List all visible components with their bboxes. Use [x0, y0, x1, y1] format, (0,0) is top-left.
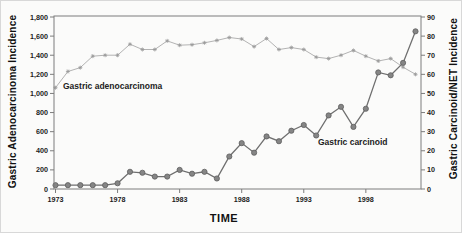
right-axis-tick-label: 90 [427, 13, 435, 22]
adenocarcinoma-data-point [289, 46, 293, 50]
adenocarcinoma-data-point [364, 54, 368, 58]
x-axis-tick-label: 1993 [296, 195, 312, 204]
adenocarcinoma-data-point [128, 42, 132, 46]
carcinoid-data-point [338, 104, 343, 109]
adenocarcinoma-data-point [178, 43, 182, 47]
right-axis-tick-label: 40 [427, 108, 435, 117]
carcinoid-data-point [252, 150, 257, 155]
carcinoid-data-point [400, 60, 405, 65]
carcinoid-data-point [115, 181, 120, 186]
annotation-gastric-adenocarcinoma: Gastric adenocarcinoma [63, 81, 162, 91]
carcinoid-data-point [214, 176, 219, 181]
carcinoid-data-point [90, 183, 95, 188]
adenocarcinoma-data-point [140, 47, 144, 51]
right-axis-tick-label: 20 [427, 146, 435, 155]
adenocarcinoma-data-point [314, 55, 318, 59]
carcinoid-data-point [363, 106, 368, 111]
adenocarcinoma-data-point [376, 59, 380, 63]
annotation-gastric-carcinoid: Gastric carcinoid [318, 137, 387, 147]
adenocarcinoma-data-point [302, 47, 306, 51]
adenocarcinoma-data-point [215, 38, 219, 42]
left-axis-tick-label: 200 [36, 165, 48, 174]
chart-figure: Gastric Adenocarcinoma Incidence Gastric… [0, 0, 462, 233]
right-axis-tick-label: 50 [427, 89, 435, 98]
x-axis-tick-label: 1978 [110, 195, 126, 204]
carcinoid-data-point [152, 174, 157, 179]
carcinoid-data-point [140, 170, 145, 175]
carcinoid-data-point [276, 139, 281, 144]
carcinoid-data-point [127, 169, 132, 174]
adenocarcinoma-data-point [265, 37, 269, 41]
x-axis-tick-label: 1973 [48, 195, 64, 204]
left-axis-tick-label: 1,800 [30, 13, 48, 22]
carcinoid-data-point [351, 124, 356, 129]
carcinoid-data-point [177, 167, 182, 172]
adenocarcinoma-data-point [227, 36, 231, 40]
left-axis-tick-label: 1,600 [30, 32, 48, 41]
right-axis-tick-label: 60 [427, 70, 435, 79]
adenocarcinoma-data-point [252, 45, 256, 49]
x-axis-title: TIME [194, 212, 254, 224]
left-axis-tick-label: 1,000 [30, 89, 48, 98]
x-axis-tick-label: 1983 [172, 195, 188, 204]
chart-svg: 02004006008001,0001,2001,4001,6001,80001… [1, 1, 462, 233]
carcinoid-data-point [202, 169, 207, 174]
carcinoid-data-point [301, 122, 306, 127]
x-axis-tick-label: 1988 [234, 195, 250, 204]
adenocarcinoma-data-point [240, 37, 244, 41]
carcinoid-data-point [413, 29, 418, 34]
adenocarcinoma-data-point [339, 53, 343, 57]
carcinoid-data-point [103, 183, 108, 188]
carcinoid-data-point [376, 70, 381, 75]
right-axis-tick-label: 10 [427, 165, 435, 174]
left-axis-tick-label: 400 [36, 146, 48, 155]
adenocarcinoma-data-point [351, 48, 355, 52]
adenocarcinoma-data-point [414, 72, 418, 76]
adenocarcinoma-data-point [327, 57, 331, 61]
carcinoid-data-point [65, 183, 70, 188]
left-axis-tick-label: 1,400 [30, 51, 48, 60]
left-axis-tick-label: 1,200 [30, 70, 48, 79]
adenocarcinoma-data-point [202, 41, 206, 45]
x-axis-tick-label: 1998 [358, 195, 374, 204]
right-axis-tick-label: 30 [427, 127, 435, 136]
carcinoid-data-point [264, 134, 269, 139]
adenocarcinoma-data-point [103, 53, 107, 57]
carcinoid-data-point [326, 113, 331, 118]
carcinoid-data-point [78, 183, 83, 188]
carcinoid-data-point [189, 171, 194, 176]
adenocarcinoma-data-point [66, 69, 70, 73]
adenocarcinoma-data-point [190, 43, 194, 47]
adenocarcinoma-data-point [389, 57, 393, 61]
left-axis-tick-label: 600 [36, 127, 48, 136]
adenocarcinoma-data-point [91, 54, 95, 58]
right-axis-tick-label: 0 [427, 185, 431, 194]
carcinoid-data-point [289, 128, 294, 133]
carcinoid-data-point [165, 174, 170, 179]
carcinoid-data-point [227, 154, 232, 159]
right-axis-tick-label: 80 [427, 32, 435, 41]
right-axis-tick-label: 70 [427, 51, 435, 60]
adenocarcinoma-data-point [78, 66, 82, 70]
left-axis-tick-label: 800 [36, 108, 48, 117]
carcinoid-data-point [388, 73, 393, 78]
carcinoid-data-point [239, 141, 244, 146]
plot-frame [54, 16, 421, 189]
left-axis-tick-label: 0 [44, 185, 48, 194]
